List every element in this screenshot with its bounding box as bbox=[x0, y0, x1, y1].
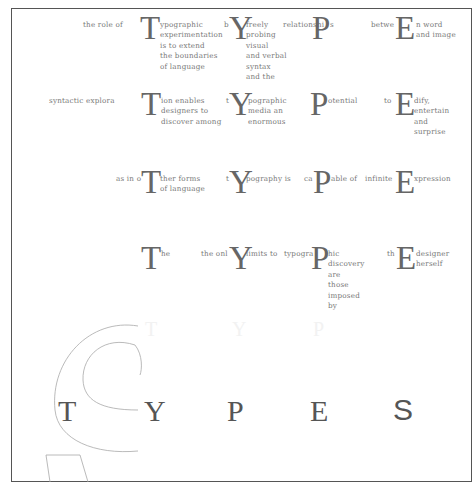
row3-t-cap: T bbox=[141, 167, 161, 197]
row4-p-pre: typogra bbox=[284, 249, 314, 259]
ghost-letter-y: Y bbox=[232, 318, 246, 341]
row2-e-post: dify, entertain and surprise bbox=[414, 96, 449, 138]
row1-y-post: freely probing visual and verbal syntax … bbox=[246, 20, 287, 82]
row4-e-pre: th bbox=[387, 249, 395, 259]
row2-t-pre: syntactic explora bbox=[49, 96, 115, 106]
row4-y-pre: the onl bbox=[201, 249, 228, 259]
row4-y-post: limits to bbox=[246, 249, 278, 259]
title-letter-s: S bbox=[393, 395, 413, 425]
row3-p-cap: P bbox=[313, 167, 331, 197]
row1-t-pre: the role of bbox=[83, 20, 123, 30]
row1-p-cap: P bbox=[312, 13, 330, 43]
row3-p-post: able of bbox=[331, 174, 357, 184]
row3-y-post: pography is bbox=[246, 174, 291, 184]
row1-e-cap: E bbox=[395, 13, 415, 43]
row4-t-post: he bbox=[161, 249, 170, 259]
row1-e-pre: betwe bbox=[371, 20, 394, 30]
row2-p-post: otential bbox=[328, 96, 357, 106]
title-letter-y: Y bbox=[144, 396, 166, 426]
row4-p-cap: P bbox=[311, 243, 329, 273]
row1-p-post: s bbox=[330, 20, 334, 30]
row2-t-post: ion enables designers to discover among bbox=[161, 96, 221, 127]
row2-p-cap: P bbox=[310, 89, 328, 119]
ghost-letter-p: P bbox=[313, 318, 324, 341]
row4-p-post: hic discovery are those imposed by bbox=[328, 249, 365, 311]
title-letter-e: E bbox=[310, 396, 328, 426]
row4-t-cap: T bbox=[141, 243, 161, 273]
title-letter-t: T bbox=[58, 396, 76, 426]
row2-e-pre: to bbox=[384, 96, 392, 106]
row2-e-cap: E bbox=[395, 89, 415, 119]
title-letter-p: P bbox=[227, 396, 244, 426]
ghost-letter-t: T bbox=[145, 318, 157, 341]
row1-t-post: ypographic experimentation is to extend … bbox=[160, 20, 223, 72]
row3-e-pre: infinite bbox=[365, 174, 393, 184]
row3-p-pre: ca bbox=[304, 174, 313, 184]
row4-e-cap: E bbox=[396, 243, 416, 273]
row2-t-cap: T bbox=[141, 89, 161, 119]
row3-e-cap: E bbox=[395, 167, 415, 197]
row4-e-post: designer herself bbox=[416, 249, 449, 270]
row3-t-post: ther forms of language bbox=[160, 174, 205, 195]
row3-e-post: xpression bbox=[414, 174, 451, 184]
row3-t-pre: as in o bbox=[116, 174, 141, 184]
row1-e-post: n word and image bbox=[416, 20, 456, 41]
row1-t-cap: T bbox=[140, 13, 160, 43]
row2-y-post: pographic media an enormous bbox=[248, 96, 287, 127]
